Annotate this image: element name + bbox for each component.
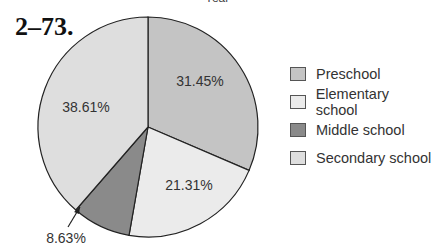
pie-slices [38, 17, 258, 237]
slice-label: 38.61% [62, 99, 109, 115]
middle-school-arrow-icon [68, 207, 80, 227]
slice-label: 31.45% [176, 73, 223, 89]
legend-label: Middle school [316, 122, 405, 138]
legend-label: Preschool [316, 66, 380, 82]
legend-label: Elementary school [316, 86, 432, 118]
legend-swatch-icon [290, 123, 306, 137]
slice-label: 8.63% [46, 230, 86, 246]
legend-item-secondary: Secondary school [290, 144, 432, 172]
slice-label: 21.31% [165, 177, 212, 193]
legend: Preschool Elementary school Middle schoo… [290, 60, 432, 172]
legend-swatch-icon [290, 95, 306, 109]
legend-item-middle: Middle school [290, 116, 432, 144]
legend-swatch-icon [290, 67, 306, 81]
legend-item-preschool: Preschool [290, 60, 432, 88]
legend-swatch-icon [290, 151, 306, 165]
pie-chart: 31.45%21.31%8.63%38.61% [0, 0, 300, 250]
legend-label: Secondary school [316, 150, 431, 166]
legend-item-elementary: Elementary school [290, 88, 432, 116]
